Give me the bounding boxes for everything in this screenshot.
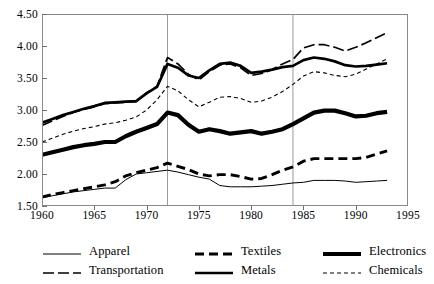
y-axis: 4.504.003.503.002.502.001.50 bbox=[0, 0, 38, 206]
y-tick-label: 3.50 bbox=[17, 72, 38, 84]
legend-label: Chemicals bbox=[369, 263, 423, 278]
legend-item-textiles[interactable]: Textiles bbox=[194, 244, 322, 259]
x-tick-label: 1980 bbox=[239, 209, 263, 221]
x-tick-mark bbox=[251, 206, 252, 210]
x-tick-label: 1985 bbox=[292, 209, 316, 221]
chart-legend: ApparelTextilesElectronicsTransportation… bbox=[42, 242, 408, 282]
y-tick-label: 3.00 bbox=[17, 104, 38, 116]
y-tick-mark bbox=[42, 46, 47, 47]
y-tick-label: 4.00 bbox=[17, 40, 38, 52]
plot-frame bbox=[42, 14, 408, 206]
y-tick-mark bbox=[42, 142, 47, 143]
legend-item-chemicals[interactable]: Chemicals bbox=[322, 263, 408, 278]
y-tick-label: 2.50 bbox=[17, 136, 38, 148]
legend-item-metals[interactable]: Metals bbox=[194, 263, 322, 278]
legend-item-transportation[interactable]: Transportation bbox=[42, 263, 194, 278]
plot-area bbox=[42, 14, 408, 206]
y-tick-mark bbox=[42, 110, 47, 111]
legend-label: Textiles bbox=[241, 244, 281, 259]
line-chart-figure: 4.504.003.503.002.502.001.50 ApparelText… bbox=[0, 0, 434, 284]
x-tick-label: 1995 bbox=[396, 209, 420, 221]
x-tick-mark bbox=[356, 206, 357, 210]
legend-label: Metals bbox=[241, 263, 276, 278]
y-tick-mark bbox=[42, 206, 47, 207]
y-tick-label: 4.50 bbox=[17, 8, 38, 20]
legend-row: ApparelTextilesElectronics bbox=[42, 242, 408, 261]
x-tick-mark bbox=[94, 206, 95, 210]
legend-line-sample-icon bbox=[194, 265, 234, 277]
legend-line-sample-icon bbox=[42, 265, 82, 277]
x-tick-label: 1965 bbox=[82, 209, 106, 221]
x-tick-label: 1975 bbox=[187, 209, 211, 221]
x-tick-mark bbox=[199, 206, 200, 210]
legend-line-sample-icon bbox=[322, 265, 362, 277]
legend-item-electronics[interactable]: Electronics bbox=[322, 244, 408, 259]
legend-label: Apparel bbox=[89, 244, 130, 259]
y-tick-label: 2.00 bbox=[17, 168, 38, 180]
legend-label: Electronics bbox=[369, 244, 426, 259]
y-tick-mark bbox=[42, 174, 47, 175]
x-tick-label: 1970 bbox=[135, 209, 159, 221]
x-tick-label: 1990 bbox=[344, 209, 368, 221]
y-tick-mark bbox=[42, 78, 47, 79]
y-tick-mark bbox=[42, 14, 47, 15]
legend-row: TransportationMetalsChemicals bbox=[42, 261, 408, 280]
legend-line-sample-icon bbox=[194, 246, 234, 258]
legend-item-apparel[interactable]: Apparel bbox=[42, 244, 194, 259]
legend-line-sample-icon bbox=[42, 246, 82, 258]
legend-line-sample-icon bbox=[322, 246, 362, 258]
x-tick-label: 1960 bbox=[30, 209, 54, 221]
x-tick-mark bbox=[303, 206, 304, 210]
legend-label: Transportation bbox=[89, 263, 164, 278]
x-tick-mark bbox=[147, 206, 148, 210]
